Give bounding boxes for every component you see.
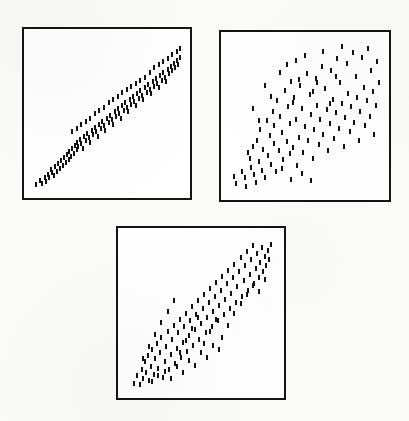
data-point [329,121,331,126]
data-point [157,373,159,378]
data-point [279,114,281,119]
data-point [313,127,315,132]
data-point [179,350,181,355]
data-point [89,116,91,121]
data-point [197,315,199,320]
data-point [333,136,335,141]
data-point [121,90,123,95]
data-point [230,291,232,296]
data-point [235,300,237,305]
data-point [259,260,261,265]
data-point [252,283,254,288]
data-point [344,115,346,120]
data-point [304,124,306,129]
data-point [94,111,96,116]
data-point [267,153,269,158]
data-point [292,100,294,105]
data-point [200,321,202,326]
data-point [290,79,292,84]
data-point [330,68,332,73]
data-point [341,101,343,106]
data-point [356,95,358,100]
data-point [243,278,245,283]
data-point [292,145,294,150]
data-point [139,78,141,83]
data-point [136,373,138,378]
data-point [253,172,255,177]
data-point [194,363,196,368]
data-point [353,120,355,125]
data-point [139,382,141,387]
data-point [100,126,102,131]
data-point [145,370,147,375]
data-point [276,98,278,103]
data-point [247,150,249,155]
data-point [370,68,372,73]
data-point [226,281,228,286]
data-point [289,121,291,126]
data-point [164,369,166,374]
data-point [171,337,173,342]
data-point [65,160,67,165]
data-point [339,80,341,85]
data-point [307,138,309,143]
data-point [168,367,170,372]
data-point [45,179,47,184]
panel-top-right [219,30,391,202]
data-point [221,335,223,340]
data-point [255,266,257,271]
data-point [309,92,311,97]
data-point [209,286,211,291]
data-point [48,175,50,180]
data-point [279,70,281,75]
data-point [153,65,155,70]
data-point [212,309,214,314]
data-point [148,378,150,383]
data-point [162,59,164,64]
data-point [275,169,277,174]
plot-area-bottom-center [118,228,284,398]
data-point [322,132,324,137]
data-point [284,88,286,93]
data-point [258,159,260,164]
data-point [270,94,272,99]
data-point [336,56,338,61]
data-point [197,298,199,303]
data-point [205,330,207,335]
data-point [174,65,176,70]
data-point [198,337,200,342]
data-point [233,174,235,179]
data-point [177,62,179,67]
data-point [212,343,214,348]
data-point [302,150,304,155]
data-point [227,323,229,328]
data-point [171,68,173,73]
data-point [224,297,226,302]
data-point [150,364,152,369]
data-point [176,364,178,369]
data-point [179,55,181,60]
data-point [358,138,360,143]
data-point [347,91,349,96]
data-point [148,344,150,349]
data-point [73,151,75,156]
data-point [135,103,137,108]
data-point [160,335,162,340]
data-point [71,129,73,134]
data-point [298,135,300,140]
panel-top-left [22,27,192,200]
data-point [130,84,132,89]
data-point [266,118,268,123]
data-point [232,275,234,280]
data-point [290,177,292,182]
data-point [185,311,187,316]
data-point [240,301,242,306]
data-point [299,83,301,88]
data-point [189,318,191,323]
data-point [176,346,178,351]
data-point [252,106,254,111]
data-point [366,98,368,103]
data-point [142,97,144,102]
data-point [273,141,275,146]
data-point [98,108,100,113]
